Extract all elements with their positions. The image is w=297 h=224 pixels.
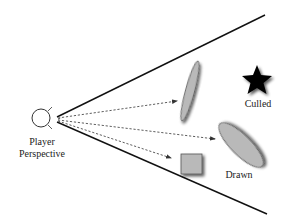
ray-to-large-ellipse	[58, 120, 215, 139]
view-frustum	[57, 15, 267, 214]
culled-label: Culled	[240, 98, 276, 110]
player-label-line2: Perspective	[12, 148, 72, 160]
square-object	[181, 154, 202, 174]
frustum-culling-diagram	[0, 0, 297, 224]
star-culled-object	[242, 65, 272, 94]
drawn-label: Drawn	[221, 169, 257, 181]
player-perspective-label: Player Perspective	[12, 136, 72, 160]
frustum-top-edge	[57, 15, 265, 117]
player-head-icon	[32, 107, 52, 129]
large-ellipse-object	[213, 117, 270, 174]
thin-ellipse-object	[178, 60, 203, 122]
sight-rays	[58, 101, 215, 158]
player-label-line1: Player	[12, 136, 72, 148]
ray-to-thin-ellipse	[58, 101, 177, 118]
